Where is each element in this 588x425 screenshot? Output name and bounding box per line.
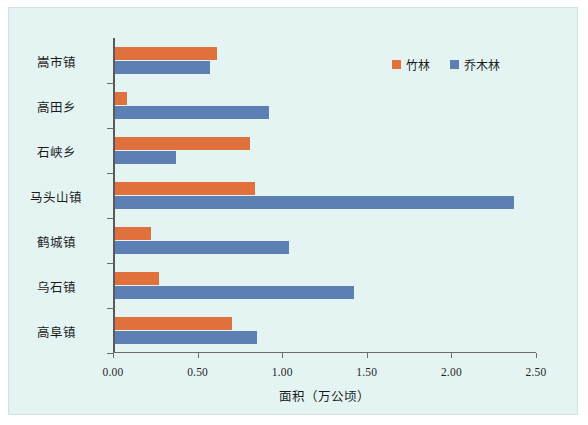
category-label: 乌石镇 bbox=[11, 277, 101, 296]
x-tick-label: 2.00 bbox=[441, 366, 462, 378]
x-tick-mark bbox=[367, 353, 368, 358]
category-row: 石峡乡 bbox=[113, 128, 536, 173]
bar-1 bbox=[115, 241, 289, 254]
x-tick-label: 1.00 bbox=[272, 366, 293, 378]
x-tick-mark bbox=[282, 353, 283, 358]
x-tick-label: 0.50 bbox=[187, 366, 208, 378]
chart-figure: 0.000.501.001.502.002.50 嵩市镇高田乡石峡乡马头山镇鹤城… bbox=[8, 7, 578, 415]
category-row: 高阜镇 bbox=[113, 308, 536, 353]
plot-area: 0.000.501.001.502.002.50 嵩市镇高田乡石峡乡马头山镇鹤城… bbox=[113, 38, 536, 353]
category-label: 嵩市镇 bbox=[11, 52, 101, 71]
chart-legend: 竹林乔木林 bbox=[392, 56, 500, 73]
bar-0 bbox=[115, 182, 255, 195]
bar-0 bbox=[115, 47, 217, 60]
bar-1 bbox=[115, 286, 354, 299]
legend-item: 竹林 bbox=[392, 56, 430, 73]
legend-item: 乔木林 bbox=[450, 56, 500, 73]
bar-0 bbox=[115, 92, 127, 105]
x-tick-mark bbox=[536, 353, 537, 358]
category-row: 乌石镇 bbox=[113, 263, 536, 308]
bar-0 bbox=[115, 227, 151, 240]
x-tick-mark bbox=[451, 353, 452, 358]
x-axis-title: 面积（万公顷） bbox=[113, 386, 536, 405]
x-tick-label: 1.50 bbox=[356, 366, 377, 378]
category-row: 马头山镇 bbox=[113, 173, 536, 218]
category-tick-mark bbox=[107, 353, 114, 354]
category-row: 高田乡 bbox=[113, 83, 536, 128]
bar-1 bbox=[115, 151, 176, 164]
legend-label: 乔木林 bbox=[464, 56, 500, 73]
category-label: 鹤城镇 bbox=[11, 232, 101, 251]
bar-1 bbox=[115, 331, 257, 344]
x-tick-label: 0.00 bbox=[103, 366, 124, 378]
legend-label: 竹林 bbox=[406, 56, 430, 73]
x-tick-mark bbox=[198, 353, 199, 358]
legend-swatch-icon bbox=[450, 60, 459, 69]
bar-1 bbox=[115, 61, 210, 74]
bar-1 bbox=[115, 106, 269, 119]
category-label: 石峡乡 bbox=[11, 142, 101, 161]
bar-0 bbox=[115, 137, 250, 150]
category-label: 高阜镇 bbox=[11, 322, 101, 341]
category-label: 高田乡 bbox=[11, 97, 101, 116]
bar-1 bbox=[115, 196, 514, 209]
category-label: 马头山镇 bbox=[11, 187, 101, 206]
bar-0 bbox=[115, 272, 159, 285]
x-tick-label: 2.50 bbox=[526, 366, 547, 378]
bar-0 bbox=[115, 317, 232, 330]
legend-swatch-icon bbox=[392, 60, 401, 69]
category-row: 鹤城镇 bbox=[113, 218, 536, 263]
